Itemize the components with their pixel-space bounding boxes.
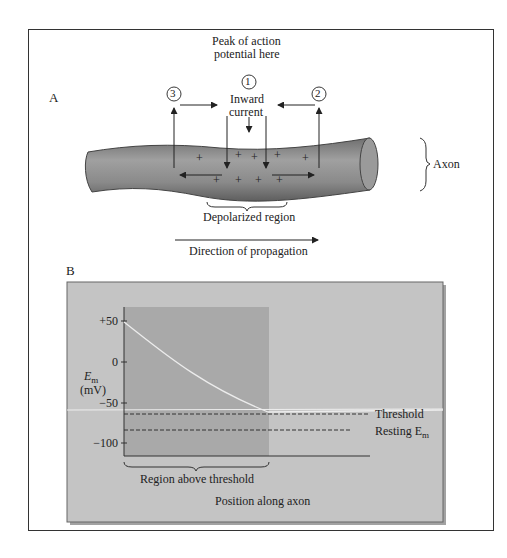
- plus-sign: +: [213, 174, 220, 187]
- marker-1: 1: [245, 75, 251, 88]
- shaded-region-above-threshold: [124, 307, 269, 456]
- panel-b-graph: [67, 282, 446, 525]
- peak-label-line2: potential here: [214, 48, 280, 61]
- panel-b-label: B: [66, 264, 75, 277]
- plus-sign: +: [274, 149, 281, 162]
- plus-sign: +: [235, 174, 242, 187]
- tick-minus-50: −50: [90, 397, 118, 410]
- panel-a-label: A: [49, 91, 58, 104]
- plus-sign: +: [255, 174, 262, 187]
- tick-50: +50: [98, 315, 118, 328]
- resting-label-text: Resting E: [375, 424, 422, 438]
- propagation-label: Direction of propagation: [189, 245, 308, 258]
- tick-0: 0: [98, 356, 118, 369]
- axon-label: Axon: [433, 158, 460, 171]
- resting-label: Resting Em: [375, 425, 429, 442]
- x-axis-label: Position along axon: [215, 495, 310, 508]
- plus-sign: +: [302, 152, 309, 165]
- plus-sign: +: [251, 151, 258, 164]
- resting-subscript: m: [422, 430, 429, 440]
- plus-sign: +: [196, 152, 203, 165]
- threshold-label: Threshold: [375, 408, 424, 421]
- depolarized-label: Depolarized region: [203, 211, 295, 224]
- tick-minus-100: −100: [84, 437, 118, 450]
- y-axis-unit: (mV): [80, 384, 106, 397]
- plus-sign: +: [235, 149, 242, 162]
- inward-label-line2: current: [229, 106, 263, 119]
- axon-brace: [420, 138, 430, 191]
- axon-drawing: [85, 138, 378, 201]
- marker-3: 3: [170, 87, 176, 100]
- marker-2: 2: [315, 87, 321, 100]
- plus-sign: +: [276, 174, 283, 187]
- region-label: Region above threshold: [140, 473, 254, 486]
